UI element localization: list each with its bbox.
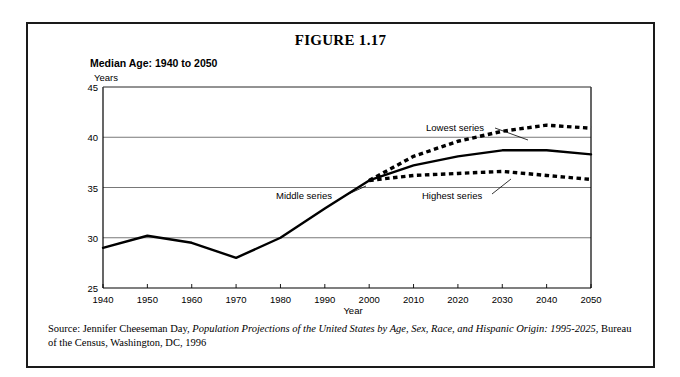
x-tick-label-2040: 2040 bbox=[536, 294, 557, 305]
y-tick-label-25: 25 bbox=[87, 283, 98, 294]
x-tick-label-1940: 1940 bbox=[92, 294, 113, 305]
gridlines-group bbox=[103, 87, 591, 238]
y-tick-label-35: 35 bbox=[87, 183, 98, 194]
x-axis-tick-labels-group: 1940195019601970198019902000201020202030… bbox=[92, 294, 601, 305]
annotation-label-highest-series: Highest series bbox=[422, 190, 482, 201]
x-axis-title: Year bbox=[343, 305, 362, 316]
source-note: Source: Jennifer Cheeseman Day, Populati… bbox=[48, 322, 638, 350]
y-axis-tick-labels-group: 2530354045 bbox=[87, 82, 98, 294]
median-age-line-chart: 2530354045 19401950196019701980199020002… bbox=[28, 24, 657, 370]
x-tick-label-2000: 2000 bbox=[359, 294, 380, 305]
x-tick-label-2010: 2010 bbox=[403, 294, 424, 305]
x-tick-label-1970: 1970 bbox=[226, 294, 247, 305]
leader-line-highest-series bbox=[492, 179, 511, 194]
y-tick-label-30: 30 bbox=[87, 233, 98, 244]
figure-frame: FIGURE 1.17 Median Age: 1940 to 2050 Yea… bbox=[26, 22, 655, 368]
x-tick-label-2050: 2050 bbox=[580, 294, 601, 305]
y-tick-label-45: 45 bbox=[87, 82, 98, 93]
x-tick-label-1990: 1990 bbox=[314, 294, 335, 305]
x-tick-label-1960: 1960 bbox=[181, 294, 202, 305]
x-tick-label-1950: 1950 bbox=[137, 294, 158, 305]
source-title: Population Projections of the United Sta… bbox=[192, 323, 596, 334]
series-line-highest-series bbox=[369, 171, 591, 180]
x-tick-label-1980: 1980 bbox=[270, 294, 291, 305]
annotation-label-middle-series: Middle series bbox=[276, 190, 332, 201]
x-tick-label-2030: 2030 bbox=[492, 294, 513, 305]
x-tick-label-2020: 2020 bbox=[447, 294, 468, 305]
y-tick-label-40: 40 bbox=[87, 132, 98, 143]
source-prefix: Source: Jennifer Cheeseman Day, bbox=[48, 323, 190, 334]
annotation-label-lowest-series: Lowest series bbox=[426, 122, 484, 133]
